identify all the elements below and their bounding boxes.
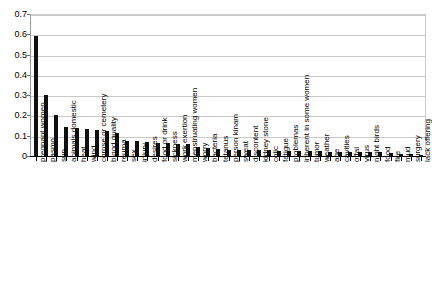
- x-axis-category-label: person kinam: [232, 114, 240, 162]
- y-axis-tick-label: 0.2: [1, 111, 27, 120]
- x-axis-category-label-text: mud: [404, 146, 412, 162]
- x-axis-category-label: food or drink: [161, 118, 169, 162]
- x-axis-category-label: sun: [60, 149, 68, 162]
- x-axis-category-label: offal: [353, 147, 361, 162]
- x-axis-category-label-text: work exertion: [181, 114, 189, 162]
- x-axis-category-label-text: night birds: [373, 125, 381, 162]
- x-axis-category-label: age: [333, 149, 341, 162]
- x-axis-category-label: virus: [363, 145, 371, 162]
- x-axis-category-label: sex: [130, 150, 138, 162]
- x-axis-category-label-text: worry: [201, 142, 209, 162]
- x-axis-category-label-text: inherent in some women: [303, 75, 311, 162]
- x-axis-category-label-text: offal: [353, 147, 361, 162]
- x-axis-category-label-text: fire: [394, 151, 402, 162]
- x-axis-category-label: corpse or cemetery: [100, 94, 108, 162]
- x-axis-category-label: sickness: [171, 131, 179, 162]
- x-axis-category-label-text: sun: [60, 149, 68, 162]
- x-axis-category-label-text: colic: [272, 146, 280, 162]
- x-axis-category-label: animals domestic: [70, 100, 78, 162]
- x-axis-category-label: night birds: [373, 125, 381, 162]
- y-axis-tick-mark: [27, 55, 30, 56]
- x-axis-category-label-text: tumor: [313, 142, 321, 162]
- x-axis-category-label-text: sex: [130, 150, 138, 162]
- x-axis-category-label: worry: [201, 142, 209, 162]
- x-axis-category-label-text: animals domestic: [70, 100, 78, 162]
- x-axis-category-label: lack offering: [424, 119, 432, 162]
- x-axis-category-label: food: [384, 146, 392, 162]
- y-axis-tick-mark: [27, 95, 30, 96]
- x-axis-category-labels: pregnant womenpasmosunanimals domestiche…: [31, 162, 426, 286]
- x-axis-category-label-text: wind: [90, 146, 98, 162]
- y-axis-tick-label: 0: [1, 152, 27, 161]
- y-axis-tick-mark: [27, 156, 30, 157]
- x-axis-category-label-text: tetanus: [222, 136, 230, 162]
- x-axis-category-label-text: food: [384, 146, 392, 162]
- x-axis-category-label-text: corpse or cemetery: [100, 94, 108, 162]
- bars-layer: [31, 14, 426, 156]
- x-axis-category-label: discontent: [252, 126, 260, 162]
- x-axis-category-label-text: cavities: [343, 135, 351, 162]
- y-axis-tick-label: 0.1: [1, 131, 27, 140]
- x-axis-category-label: colic: [272, 146, 280, 162]
- x-axis-category-label: injury: [141, 143, 149, 162]
- x-axis-category-label-text: fatigue: [282, 138, 290, 162]
- x-axis-category-label-text: menstruating women: [191, 88, 199, 162]
- y-axis-tick-mark: [27, 34, 30, 35]
- x-axis-category-label: desires: [151, 136, 159, 162]
- y-axis-tick-label: 0.4: [1, 70, 27, 79]
- x-axis-category-label: tetanus: [222, 136, 230, 162]
- x-axis-category-label-text: discontent: [252, 126, 260, 162]
- y-axis-tick-mark: [27, 14, 30, 15]
- x-axis-category-label-text: bacteria: [211, 134, 219, 162]
- x-axis-tick-mark: [36, 157, 37, 161]
- x-axis-category-label-text: sweat: [242, 141, 250, 162]
- x-axis-category-label: tumor: [313, 142, 321, 162]
- x-axis-category-label: menstruating women: [191, 88, 199, 162]
- y-axis-tick-label: 0.3: [1, 91, 27, 100]
- x-axis-category-label-text: pasmo: [49, 138, 57, 162]
- x-axis-category-label-text: virus: [363, 145, 371, 162]
- x-axis-category-label: bacteria: [211, 134, 219, 162]
- x-axis-category-label-text: reuma: [120, 139, 128, 162]
- x-axis-category-label-text: kidney stone: [262, 117, 270, 162]
- y-axis-tick-label: 0.7: [1, 10, 27, 19]
- x-axis-category-label-text: desires: [151, 136, 159, 162]
- y-axis-tick-label: 0.5: [1, 50, 27, 59]
- x-axis-category-label-text: food or drink: [161, 118, 169, 162]
- x-axis-category-label: sweat: [242, 141, 250, 162]
- x-axis-category-label-text: sickness: [171, 131, 179, 162]
- y-axis-tick-mark: [27, 115, 30, 116]
- x-axis-category-label-text: problemas: [292, 125, 300, 162]
- y-axis-tick-label: 0.6: [1, 30, 27, 39]
- x-axis-category-label: blood quality: [110, 117, 118, 162]
- x-axis-category-label: work exertion: [181, 114, 189, 162]
- y-axis-tick-labels: 00.10.20.30.40.50.60.7: [0, 0, 27, 288]
- x-axis-category-label: reuma: [120, 139, 128, 162]
- x-axis-category-label: heat: [80, 146, 88, 162]
- x-axis-category-label-text: heat: [80, 146, 88, 162]
- x-axis-category-label: wind: [90, 146, 98, 162]
- x-axis-category-label: weather: [323, 134, 331, 162]
- x-axis-category-label-text: injury: [141, 143, 149, 162]
- x-axis-category-label: surgery: [414, 135, 422, 162]
- x-axis-category-label-text: weather: [323, 134, 331, 162]
- x-axis-category-label: mud: [404, 146, 412, 162]
- x-axis-category-label: problemas: [292, 125, 300, 162]
- y-axis-tick-mark: [27, 75, 30, 76]
- x-axis-category-label-text: age: [333, 149, 341, 162]
- x-axis-category-label: fire: [394, 151, 402, 162]
- x-axis-category-label: pasmo: [49, 138, 57, 162]
- x-axis-category-label-text: person kinam: [232, 114, 240, 162]
- x-axis-category-label: fatigue: [282, 138, 290, 162]
- x-axis-category-label-text: surgery: [414, 135, 422, 162]
- x-axis-category-label-text: pregnant women: [39, 102, 47, 162]
- x-axis-category-label: inherent in some women: [303, 75, 311, 162]
- y-axis-tick-mark: [27, 136, 30, 137]
- x-axis-category-label: kidney stone: [262, 117, 270, 162]
- x-axis-category-label-text: lack offering: [424, 119, 432, 162]
- x-axis-category-label: pregnant women: [39, 102, 47, 162]
- x-axis-category-label-text: blood quality: [110, 117, 118, 162]
- x-axis-category-label: cavities: [343, 135, 351, 162]
